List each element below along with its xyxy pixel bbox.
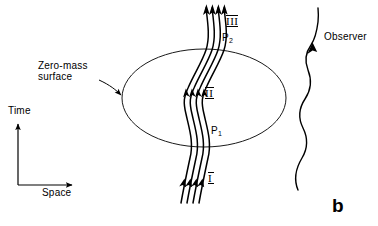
zero-mass-surface-label-line2: surface (38, 71, 72, 82)
time-axis-label: Time (8, 106, 31, 117)
zero-mass-surface-ellipse (122, 49, 286, 147)
point-label-p2: P2 (222, 33, 233, 43)
axes-indicator (18, 124, 72, 185)
point-label-p1-subscript: 1 (218, 130, 222, 137)
point-label-p2-base: P (222, 32, 229, 43)
region-label-i: I (208, 173, 212, 184)
zero-mass-surface-label-line1: Zero-mass (38, 60, 88, 71)
space-axis-label: Space (42, 188, 71, 199)
point-label-p2-subscript: 2 (229, 37, 233, 44)
observer-label: Observer (324, 32, 367, 43)
point-label-p1-base: P (211, 125, 218, 136)
worldline-3 (193, 8, 220, 203)
zero-mass-surface-leader-arrow (99, 80, 121, 95)
observer-worldline (295, 8, 318, 190)
region-label-ii: II (205, 88, 213, 99)
zero-mass-surface-label: Zero-masssurface (38, 61, 88, 83)
panel-label-b: b (332, 196, 344, 215)
point-label-p1: P1 (211, 126, 222, 136)
figure-panel-b: Zero-masssurface Time Space Observer III… (0, 0, 378, 226)
region-label-iii: III (226, 16, 239, 27)
worldline-bundle (181, 8, 226, 203)
